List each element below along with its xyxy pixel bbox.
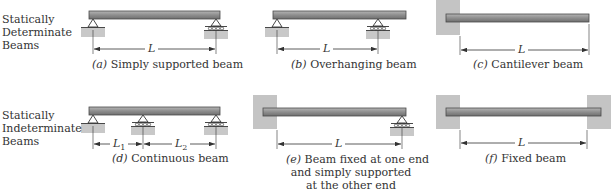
caption-letter: (a) <box>92 58 107 71</box>
caption-text: Beam fixed at one end <box>305 153 430 166</box>
caption-e: (e) Beam fixed at one end and simply sup… <box>286 153 416 189</box>
diagram-d-continuous <box>81 107 228 149</box>
caption-text: Simply supported beam <box>111 58 243 71</box>
beam <box>263 108 406 116</box>
caption-letter: (c) <box>473 58 488 71</box>
caption-text: Cantilever beam <box>491 58 583 71</box>
span-label: L <box>320 43 333 55</box>
caption-letter: (e) <box>286 153 301 166</box>
row-label-indeterminate: Statically Indeterminate Beams <box>2 109 82 148</box>
caption-b: (b) Overhanging beam <box>291 58 417 71</box>
caption-letter: (d) <box>112 152 128 165</box>
row-label-line: Beams <box>2 39 72 52</box>
caption-d: (d) Continuous beam <box>112 152 229 165</box>
span-label: L <box>515 137 528 149</box>
caption-f: (f) Fixed beam <box>485 152 566 165</box>
caption-text: at the other end <box>286 179 416 189</box>
span-label: L <box>332 138 345 150</box>
diagram-b-overhanging <box>265 11 406 54</box>
caption-letter: (b) <box>291 58 307 71</box>
caption-text: Continuous beam <box>131 152 229 165</box>
beam <box>446 14 589 22</box>
caption-text: Overhanging beam <box>310 58 416 71</box>
beam <box>89 11 220 19</box>
row-label-determinate: Statically Determinate Beams <box>2 13 72 52</box>
beam <box>446 108 601 116</box>
row-label-line: Beams <box>2 135 82 148</box>
row-label-line: Statically <box>2 13 72 26</box>
beam <box>89 107 220 115</box>
diagram-c-cantilever <box>436 0 589 55</box>
caption-text: Fixed beam <box>501 152 566 165</box>
row-label-line: Indeterminate <box>2 122 82 135</box>
row-label-line: Determinate <box>2 26 72 39</box>
row-label-line: Statically <box>2 109 82 122</box>
span-label: L <box>515 44 528 56</box>
caption-text: and simply supported <box>286 166 416 179</box>
caption-letter: (f) <box>485 152 498 165</box>
caption-a: (a) Simply supported beam <box>92 58 243 71</box>
beam <box>273 11 406 19</box>
caption-c: (c) Cantilever beam <box>473 58 583 71</box>
span-label: L <box>145 43 158 55</box>
